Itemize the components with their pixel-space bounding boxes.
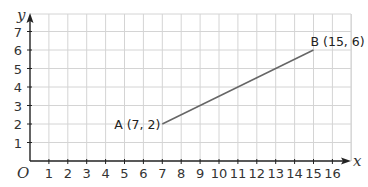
x-tick-label: 9 [196, 166, 204, 181]
x-tick-label: 15 [305, 166, 322, 181]
point-a-label: A (7, 2) [114, 117, 160, 132]
x-tick-label: 2 [64, 166, 72, 181]
x-tick-label: 16 [324, 166, 341, 181]
x-tick-label: 12 [249, 166, 266, 181]
y-tick-label: 3 [14, 99, 22, 114]
tick-labels: 123456789101112131415161234567 [14, 25, 341, 182]
y-tick-label: 7 [14, 25, 22, 40]
point-b-label: B (15, 6) [311, 34, 365, 49]
x-tick-label: 4 [101, 166, 109, 181]
y-axis-label: y [16, 6, 26, 24]
x-tick-label: 1 [45, 166, 53, 181]
axes [27, 13, 352, 165]
x-tick-label: 7 [158, 166, 166, 181]
y-tick-label: 6 [14, 43, 22, 58]
x-tick-label: 6 [139, 166, 147, 181]
x-tick-label: 13 [267, 166, 284, 181]
y-tick-label: 2 [14, 117, 22, 132]
x-tick-label: 14 [286, 166, 303, 181]
x-tick-label: 11 [230, 166, 247, 181]
origin-label: O [17, 164, 29, 182]
x-tick-label: 3 [83, 166, 91, 181]
y-tick-label: 5 [14, 62, 22, 77]
x-tick-label: 5 [120, 166, 128, 181]
y-tick-label: 1 [14, 136, 22, 151]
coordinate-chart: 123456789101112131415161234567 A (7, 2)B… [0, 0, 368, 187]
line-segment-ab: A (7, 2)B (15, 6) [114, 34, 364, 132]
x-tick-label: 10 [211, 166, 228, 181]
grid-lines [30, 14, 351, 161]
x-axis-label: x [353, 152, 362, 170]
x-tick-label: 8 [177, 166, 185, 181]
y-tick-label: 4 [14, 80, 22, 95]
